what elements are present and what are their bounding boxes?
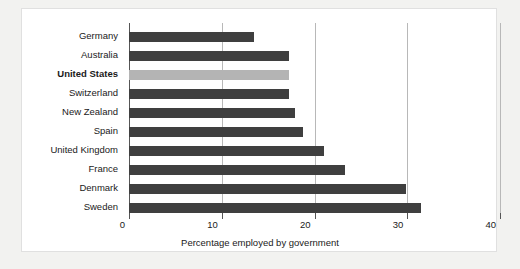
tick-mark-0 <box>129 213 130 219</box>
category-label-united-kingdom: United Kingdom <box>50 143 118 156</box>
bar-united-kingdom <box>129 146 324 156</box>
bar-row <box>129 28 500 47</box>
category-label-australia: Australia <box>81 48 118 61</box>
bar-row <box>129 142 500 161</box>
bar-row <box>129 85 500 104</box>
category-label-germany: Germany <box>79 29 118 42</box>
gridline-40 <box>500 23 501 213</box>
bar-row <box>129 123 500 142</box>
bar-united-states <box>129 70 289 80</box>
category-label-france: France <box>88 162 118 175</box>
tick-mark-30 <box>407 213 408 219</box>
tick-label-20: 20 <box>300 219 311 230</box>
category-label-sweden: Sweden <box>84 200 118 213</box>
chart-figure: GermanyAustraliaUnited StatesSwitzerland… <box>0 0 520 269</box>
bar-france <box>129 165 345 175</box>
bar-spain <box>129 127 303 137</box>
tick-label-0: 0 <box>120 219 125 230</box>
tick-label-10: 10 <box>207 219 218 230</box>
tick-mark-40 <box>500 213 501 219</box>
category-label-denmark: Denmark <box>79 181 118 194</box>
bar-denmark <box>129 184 406 194</box>
chart-panel: GermanyAustraliaUnited StatesSwitzerland… <box>21 8 497 252</box>
category-labels: GermanyAustraliaUnited StatesSwitzerland… <box>24 23 124 213</box>
category-label-new-zealand: New Zealand <box>62 105 118 118</box>
category-label-spain: Spain <box>94 124 118 137</box>
bar-switzerland <box>129 89 289 99</box>
category-label-united-states: United States <box>57 67 118 80</box>
tick-mark-20 <box>315 213 316 219</box>
category-label-switzerland: Switzerland <box>69 86 118 99</box>
tick-label-40: 40 <box>485 219 496 230</box>
bar-row <box>129 47 500 66</box>
bar-row <box>129 66 500 85</box>
bar-row <box>129 180 500 199</box>
bar-australia <box>129 51 289 61</box>
tick-mark-10 <box>222 213 223 219</box>
bar-row <box>129 104 500 123</box>
bar-new-zealand <box>129 108 295 118</box>
bar-row <box>129 161 500 180</box>
tick-label-30: 30 <box>393 219 404 230</box>
bar-germany <box>129 32 254 42</box>
bar-sweden <box>129 203 421 213</box>
plot-area: GermanyAustraliaUnited StatesSwitzerland… <box>129 23 500 213</box>
x-axis-title: Percentage employed by government <box>22 237 498 248</box>
